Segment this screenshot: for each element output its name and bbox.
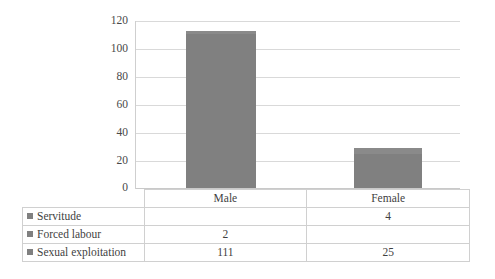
table-corner-cell xyxy=(23,190,145,208)
table-header-row: Male Female xyxy=(23,190,470,208)
gridline-80: 80 xyxy=(135,77,460,78)
bar-segment-male-sexual-exploitation xyxy=(186,34,256,188)
cell-forced-labour-female xyxy=(307,226,470,244)
gridline-60: 60 xyxy=(135,105,460,106)
cell-forced-labour-male: 2 xyxy=(144,226,307,244)
cell-sexual-exploitation-male: 111 xyxy=(144,244,307,262)
y-axis-tick-20: 20 xyxy=(88,155,128,167)
legend-swatch-icon xyxy=(27,249,33,255)
bar-female[interactable] xyxy=(354,148,422,188)
column-header-female: Female xyxy=(307,190,470,208)
column-header-male: Male xyxy=(144,190,307,208)
legend-label-servitude: Servitude xyxy=(37,210,81,222)
gridline-120: 120 xyxy=(135,21,460,22)
legend-swatch-icon xyxy=(27,231,33,237)
bar-segment-female-sexual-exploitation xyxy=(354,154,422,188)
cell-sexual-exploitation-female: 25 xyxy=(307,244,470,262)
y-axis-tick-80: 80 xyxy=(88,71,128,83)
legend-swatch-icon xyxy=(27,213,33,219)
legend-row-sexual-exploitation: Sexual exploitation xyxy=(23,244,145,262)
y-axis-tick-60: 60 xyxy=(88,99,128,111)
y-axis-tick-100: 100 xyxy=(88,43,128,55)
gridline-100: 100 xyxy=(135,49,460,50)
table-row: Sexual exploitation 111 25 xyxy=(23,244,470,262)
cell-servitude-male xyxy=(144,208,307,226)
table-row: Servitude 4 xyxy=(23,208,470,226)
data-table: Male Female Servitude 4 Forced labour 2 … xyxy=(22,189,470,262)
legend-row-servitude: Servitude xyxy=(23,208,145,226)
legend-label-sexual-exploitation: Sexual exploitation xyxy=(37,246,126,258)
y-axis-tick-40: 40 xyxy=(88,127,128,139)
bar-male[interactable] xyxy=(186,31,256,188)
y-axis-tick-120: 120 xyxy=(88,15,128,27)
gridline-40: 40 xyxy=(135,133,460,134)
chart-plot-area: 120 100 80 60 40 20 0 xyxy=(135,21,460,188)
legend-row-forced-labour: Forced labour xyxy=(23,226,145,244)
table-row: Forced labour 2 xyxy=(23,226,470,244)
cell-servitude-female: 4 xyxy=(307,208,470,226)
y-axis-line xyxy=(135,21,136,189)
legend-label-forced-labour: Forced labour xyxy=(37,228,101,240)
